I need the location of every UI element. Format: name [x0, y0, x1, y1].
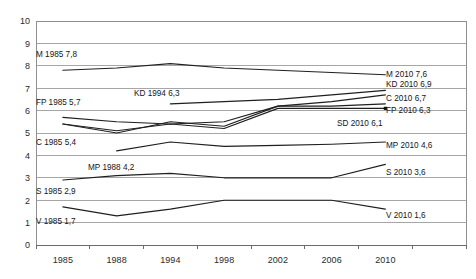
y-tick-label: 7	[25, 84, 30, 94]
y-tick-label: 10	[20, 16, 30, 26]
annotation-mp-end: MP 2010 4,6	[386, 141, 433, 150]
y-tick-label: 6	[25, 106, 30, 116]
y-tick-label: 0	[25, 240, 30, 250]
line-chart: 012345678910 198519881994199820022006201…	[0, 0, 476, 279]
x-axis-tick-labels: 1985198819941998200220062010	[53, 255, 396, 265]
annotation-v-start: V 1985 1,7	[36, 217, 76, 226]
y-tick-label: 1	[25, 218, 30, 228]
x-tick-label-1994: 1994	[160, 255, 180, 265]
annotation-c-start: C 1985 5,4	[36, 138, 77, 147]
series-line-MP	[117, 142, 386, 151]
series-annotations: M 1985 7,8FP 1985 5,7KD 1994 6,3C 1985 5…	[36, 50, 433, 226]
y-tick-label: 5	[25, 128, 30, 138]
annotation-s-end: S 2010 3,6	[386, 168, 426, 177]
x-tick-label-1998: 1998	[214, 255, 234, 265]
y-tick-label: 2	[25, 196, 30, 206]
annotation-s-start: S 1985 2,9	[36, 187, 76, 196]
annotation-fp-end: FP 2010 6,3	[386, 106, 431, 115]
y-tick-label: 9	[25, 39, 30, 49]
annotation-v-end: V 2010 1,6	[386, 211, 426, 220]
annotation-kd-end: KD 2010 6,9	[386, 80, 432, 89]
series-line-M	[63, 64, 386, 75]
x-tick-label-2010: 2010	[375, 255, 395, 265]
annotation-c-end: C 2010 6,7	[386, 94, 427, 103]
y-tick-label: 8	[25, 61, 30, 71]
y-tick-label: 4	[25, 151, 30, 161]
annotation-mp-start: MP 1988 4,2	[88, 163, 135, 172]
x-tick-label-1988: 1988	[107, 255, 127, 265]
x-tick-label-1985: 1985	[53, 255, 73, 265]
chart-svg: 012345678910 198519881994199820022006201…	[0, 0, 476, 279]
annotation-m-end: M 2010 7,6	[386, 70, 427, 79]
y-axis-tick-labels: 012345678910	[20, 16, 30, 250]
y-tick-label: 3	[25, 173, 30, 183]
x-tick-label-2006: 2006	[322, 255, 342, 265]
x-axis	[36, 245, 466, 249]
annotation-fp-start: FP 1985 5,7	[36, 98, 81, 107]
annotation-m-start: M 1985 7,8	[36, 50, 77, 59]
annotation-kd-start: KD 1994 6,3	[134, 89, 180, 98]
annotation-sd-end: SD 2010 6,1	[337, 119, 383, 128]
x-tick-label-2002: 2002	[268, 255, 288, 265]
series-line-KD	[170, 90, 385, 103]
series-line-V	[63, 200, 386, 216]
series-lines	[63, 64, 386, 216]
